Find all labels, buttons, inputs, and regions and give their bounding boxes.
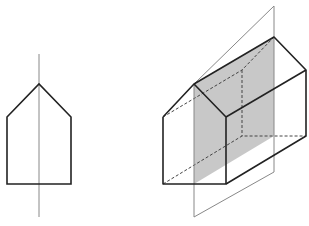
prism-figure — [163, 6, 306, 217]
pentagon-figure — [7, 54, 71, 217]
diagram-canvas — [0, 0, 309, 226]
